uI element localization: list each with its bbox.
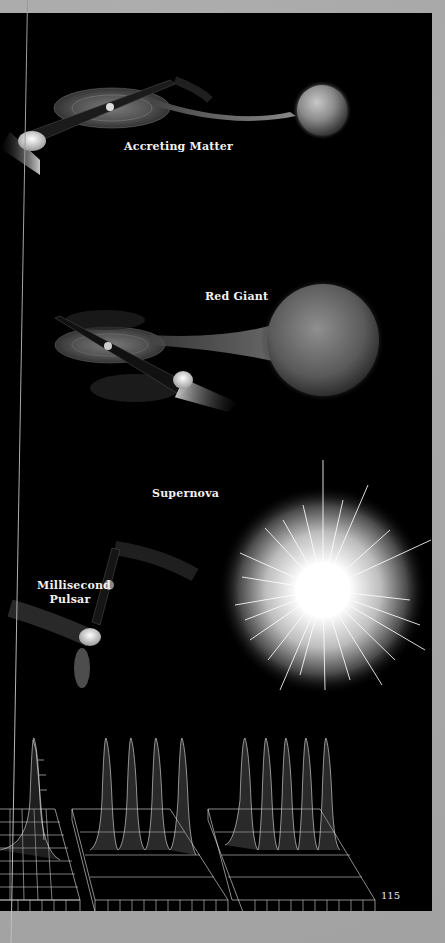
label-millisecond-pulsar-line2: Pulsar [37,593,103,607]
pulse-plot-2 [72,738,228,911]
page-number: 115 [381,890,400,901]
label-millisecond-pulsar-line1: Millisecond [37,579,103,593]
label-millisecond-pulsar: Millisecond Pulsar [37,579,103,607]
label-accreting-matter: Accreting Matter [124,140,233,153]
accreting-matter-illustration [0,80,352,175]
label-supernova: Supernova [152,487,219,500]
millisecond-pulsar-illustration [10,548,195,688]
supernova-illustration [218,460,431,695]
label-red-giant: Red Giant [205,290,268,303]
pulse-plot-3 [208,738,375,911]
